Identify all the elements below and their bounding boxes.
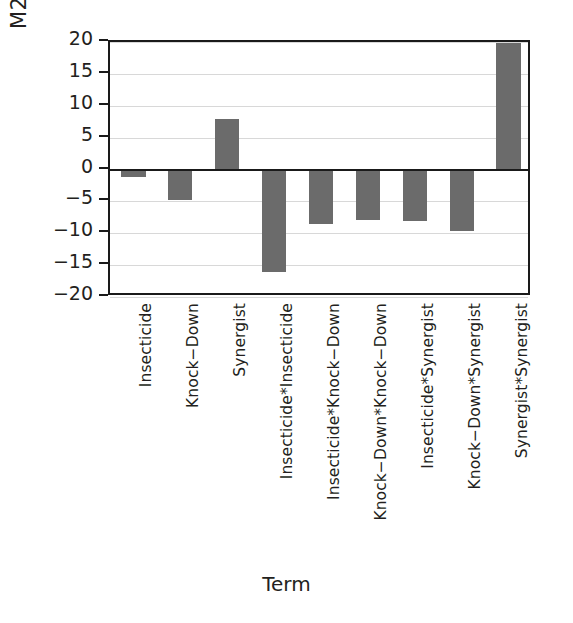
y-tick-label: 5 (13, 123, 93, 145)
y-tick-label: 10 (13, 91, 93, 113)
plot-area (108, 40, 530, 295)
x-tick-label: Insecticide*Synergist (419, 303, 437, 469)
x-tick-label: Insecticide (137, 303, 155, 387)
x-tick-label: Synergist (231, 303, 249, 377)
x-tick-label: Knock−Down*Knock−Down (372, 303, 390, 521)
x-tick-label: Knock−Down*Synergist (466, 303, 484, 489)
gridline (110, 297, 528, 298)
x-tick-label: Insecticide*Knock−Down (325, 303, 343, 500)
y-tick-mark (99, 198, 108, 200)
x-tick-label: Insecticide*Insecticide (278, 303, 296, 479)
zero-baseline (110, 42, 528, 293)
y-tick-mark (99, 71, 108, 73)
y-tick-label: −5 (13, 186, 93, 208)
y-tick-mark (99, 167, 108, 169)
bar-chart: M24 Estimates 20151050−5−10−15−20 Insect… (0, 0, 573, 623)
y-tick-mark (99, 135, 108, 137)
y-tick-mark (99, 230, 108, 232)
y-tick-label: 0 (13, 155, 93, 177)
x-tick-label: Knock−Down (184, 303, 202, 408)
y-tick-mark (99, 39, 108, 41)
x-axis-title: Term (0, 572, 573, 596)
x-tick-label: Synergist*Synergist (513, 303, 531, 458)
y-tick-mark (99, 262, 108, 264)
zero-line (110, 169, 528, 171)
y-tick-label: −20 (13, 282, 93, 304)
y-tick-mark (99, 294, 108, 296)
y-tick-label: −15 (13, 250, 93, 272)
y-tick-label: 20 (13, 27, 93, 49)
y-tick-label: 15 (13, 59, 93, 81)
y-tick-mark (99, 103, 108, 105)
y-tick-label: −10 (13, 218, 93, 240)
